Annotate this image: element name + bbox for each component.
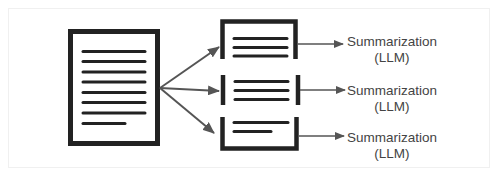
label-line-2: (LLM) — [337, 146, 447, 162]
document-icon — [71, 32, 158, 144]
label-line-1: Summarization — [337, 34, 447, 50]
split-arrows — [160, 47, 219, 133]
label-line-2: (LLM) — [337, 50, 447, 66]
label-line-1: Summarization — [337, 130, 447, 146]
arrow-to-chunk-3 — [160, 88, 214, 133]
chunk-middle-icon — [223, 75, 298, 105]
arrow-to-chunk-2 — [160, 88, 219, 91]
label-line-2: (LLM) — [337, 99, 447, 115]
chunk-top-icon — [223, 22, 296, 60]
chunk-bottom-icon — [223, 117, 297, 149]
summarization-label-3: Summarization (LLM) — [337, 130, 447, 162]
arrow-to-chunk-1 — [160, 47, 219, 88]
label-line-1: Summarization — [337, 83, 447, 99]
summarization-label-2: Summarization (LLM) — [337, 83, 447, 115]
summarization-label-1: Summarization (LLM) — [337, 34, 447, 66]
